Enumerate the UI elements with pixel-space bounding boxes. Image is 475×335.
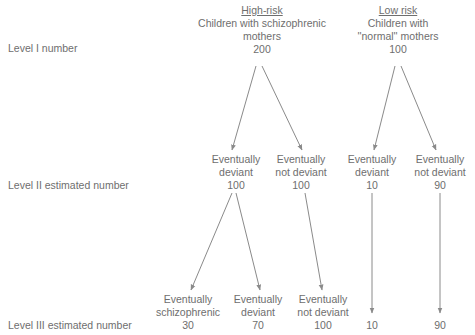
node-line2: deviant bbox=[348, 166, 396, 179]
level-1-label: Level I number bbox=[8, 42, 77, 55]
node-line1: Eventually bbox=[156, 293, 220, 306]
node-line2: schizophrenic bbox=[156, 306, 220, 319]
low-risk-title: Low risk bbox=[358, 4, 439, 17]
high-risk-count: 200 bbox=[198, 43, 326, 56]
level2-low-deviant: Eventually deviant 10 bbox=[348, 153, 396, 192]
node-count: 70 bbox=[234, 319, 282, 332]
arrow-low-to-deviant bbox=[374, 66, 395, 150]
high-risk-subtitle-1: Children with schizophrenic bbox=[198, 17, 326, 30]
high-risk-group: High-risk Children with schizophrenic mo… bbox=[198, 4, 326, 56]
node-line1: Eventually bbox=[348, 153, 396, 166]
arrow-low-to-not-deviant bbox=[401, 66, 436, 150]
node-line1: Eventually bbox=[275, 153, 326, 166]
level-2-label: Level II estimated number bbox=[8, 179, 129, 192]
low-risk-group: Low risk Children with ''normal'' mother… bbox=[358, 4, 439, 56]
arrow-deviant-to-deviant bbox=[236, 193, 260, 290]
node-line1: Eventually bbox=[234, 293, 282, 306]
node-line2: deviant bbox=[234, 306, 282, 319]
low-risk-subtitle-2: ''normal'' mothers bbox=[358, 30, 439, 43]
node-count: 30 bbox=[156, 319, 220, 332]
node-line1: Eventually bbox=[212, 153, 260, 166]
node-line2: deviant bbox=[212, 166, 260, 179]
level-3-label: Level III estimated number bbox=[8, 319, 132, 332]
level2-high-deviant: Eventually deviant 100 bbox=[212, 153, 260, 192]
node-line2: not deviant bbox=[414, 166, 465, 179]
high-risk-title: High-risk bbox=[198, 4, 326, 17]
level3-not-deviant: Eventually not deviant 100 bbox=[297, 293, 348, 332]
arrow-high-to-not-deviant bbox=[262, 66, 302, 150]
node-count: 90 bbox=[414, 179, 465, 192]
level2-low-not-deviant: Eventually not deviant 90 bbox=[414, 153, 465, 192]
node-line1: Eventually bbox=[297, 293, 348, 306]
level3-low-deviant-count: 10 bbox=[366, 319, 378, 332]
node-line2: not deviant bbox=[275, 166, 326, 179]
node-line1: Eventually bbox=[414, 153, 465, 166]
node-count: 100 bbox=[275, 179, 326, 192]
high-risk-subtitle-2: mothers bbox=[198, 30, 326, 43]
level2-high-not-deviant: Eventually not deviant 100 bbox=[275, 153, 326, 192]
arrow-deviant-to-schizophrenic bbox=[191, 193, 232, 290]
level3-low-not-deviant-count: 90 bbox=[434, 319, 446, 332]
level3-schizophrenic: Eventually schizophrenic 30 bbox=[156, 293, 220, 332]
arrow-not-deviant-to-not-deviant bbox=[305, 193, 322, 290]
node-line2: not deviant bbox=[297, 306, 348, 319]
node-count: 100 bbox=[297, 319, 348, 332]
low-risk-subtitle-1: Children with bbox=[358, 17, 439, 30]
level3-deviant: Eventually deviant 70 bbox=[234, 293, 282, 332]
low-risk-count: 100 bbox=[358, 43, 439, 56]
arrow-high-to-deviant bbox=[232, 66, 256, 150]
node-count: 10 bbox=[348, 179, 396, 192]
node-count: 100 bbox=[212, 179, 260, 192]
